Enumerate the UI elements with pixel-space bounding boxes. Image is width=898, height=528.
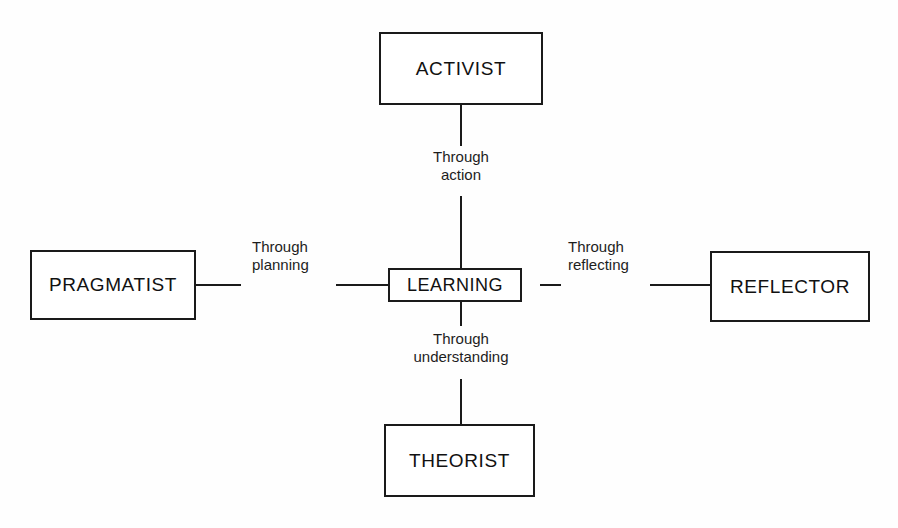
connector-pragmatist-outer — [196, 284, 241, 286]
node-theorist[interactable]: THEORIST — [384, 424, 535, 497]
edge-label-through-action-line1: Through — [401, 148, 521, 166]
edge-label-through-planning: Through planning — [252, 238, 382, 275]
edge-label-through-understanding: Through understanding — [381, 330, 541, 367]
node-pragmatist[interactable]: PRAGMATIST — [30, 250, 196, 320]
node-reflector-label: REFLECTOR — [730, 276, 850, 298]
edge-label-through-reflecting-line2: reflecting — [568, 256, 708, 274]
connector-reflector-inner — [540, 284, 561, 286]
node-activist-label: ACTIVIST — [416, 58, 506, 80]
edge-label-through-planning-line2: planning — [252, 256, 382, 274]
node-activist[interactable]: ACTIVIST — [379, 32, 543, 105]
connector-theorist-upper — [460, 302, 462, 326]
connector-theorist-lower — [460, 379, 462, 425]
node-learning-label: LEARNING — [407, 275, 503, 296]
connector-pragmatist-inner — [336, 284, 388, 286]
edge-label-through-understanding-line2: understanding — [381, 348, 541, 366]
edge-label-through-reflecting: Through reflecting — [568, 238, 708, 275]
edge-label-through-planning-line1: Through — [252, 238, 382, 256]
connector-reflector-outer — [650, 284, 710, 286]
node-learning[interactable]: LEARNING — [388, 268, 522, 302]
node-pragmatist-label: PRAGMATIST — [49, 274, 177, 296]
learning-styles-diagram: ACTIVIST Through action PRAGMATIST Throu… — [0, 0, 898, 528]
edge-label-through-understanding-line1: Through — [381, 330, 541, 348]
node-reflector[interactable]: REFLECTOR — [710, 251, 870, 322]
connector-activist-lower — [460, 196, 462, 268]
edge-label-through-action-line2: action — [401, 166, 521, 184]
node-theorist-label: THEORIST — [409, 450, 510, 472]
edge-label-through-action: Through action — [401, 148, 521, 185]
edge-label-through-reflecting-line1: Through — [568, 238, 708, 256]
connector-activist-upper — [460, 105, 462, 146]
